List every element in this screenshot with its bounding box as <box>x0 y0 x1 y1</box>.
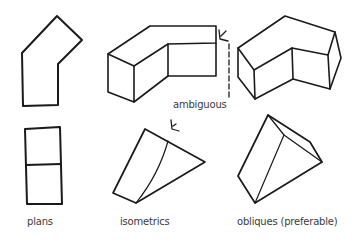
obliques-label: obliques (preferable) <box>237 216 337 227</box>
ambiguous-label: ambiguous <box>173 99 227 110</box>
diagram-canvas: ambiguous plans isometrics obliques (pre… <box>0 0 355 248</box>
ambiguous-arrow-top <box>219 30 229 100</box>
ambiguous-arrow-bottom <box>171 120 179 131</box>
plan-top-shape <box>22 16 82 106</box>
plans-label: plans <box>27 216 53 227</box>
oblique-top-shape <box>238 16 341 99</box>
isometric-top-shape <box>108 26 216 102</box>
oblique-bottom-shape <box>238 115 322 203</box>
plan-bottom-shape <box>25 127 62 204</box>
isometrics-label: isometrics <box>120 216 170 227</box>
sketch-drawings <box>0 0 355 248</box>
isometric-bottom-shape <box>113 129 205 203</box>
